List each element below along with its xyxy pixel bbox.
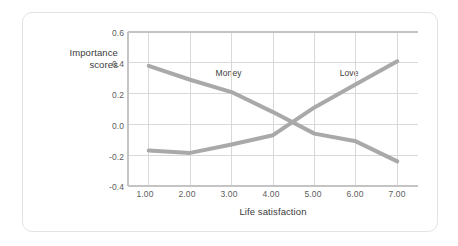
- plot-area: [0, 0, 458, 246]
- gridlines: [128, 32, 418, 186]
- line-chart: Importancescores 0.6 0.4 0.2 0.0 -0.2 -0…: [0, 0, 458, 246]
